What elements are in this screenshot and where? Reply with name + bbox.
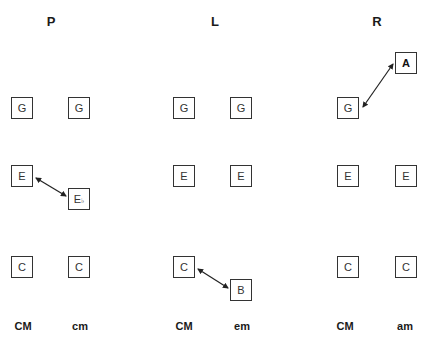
note-label: E	[74, 193, 81, 205]
note-box-l-right-b: B	[230, 279, 252, 301]
note-box-l-right-g: G	[230, 97, 252, 119]
arrow-l-c-to-b	[198, 269, 228, 288]
note-box-r-left-g: G	[337, 97, 359, 119]
note-box-l-left-c: C	[173, 256, 195, 278]
arrow-p-e-to-eflat	[36, 178, 66, 196]
chord-label-l-right: em	[222, 320, 262, 332]
note-box-p-right-g: G	[68, 97, 90, 119]
chord-label-l-left: CM	[164, 320, 204, 332]
chord-label-r-left: CM	[325, 320, 365, 332]
note-box-r-left-c: C	[337, 256, 359, 278]
arrow-r-g-to-a	[363, 64, 393, 107]
note-box-r-left-e: E	[337, 165, 359, 187]
note-box-p-left-g: G	[11, 97, 33, 119]
note-box-r-right-e: E	[395, 165, 417, 187]
note-box-p-right-c: C	[68, 256, 90, 278]
chord-label-r-right: am	[385, 320, 425, 332]
note-box-l-left-g: G	[173, 97, 195, 119]
note-box-l-right-e: E	[230, 165, 252, 187]
note-box-r-right-a: A	[395, 52, 417, 74]
note-box-r-right-c: C	[395, 256, 417, 278]
note-box-p-right-eflat: E♭	[68, 188, 90, 210]
panel-title-r: R	[362, 14, 392, 29]
chord-label-p-right: cm	[60, 320, 100, 332]
note-box-p-left-e: E	[11, 165, 33, 187]
panel-title-p: P	[36, 14, 66, 29]
panel-title-l: L	[200, 14, 230, 29]
chord-label-p-left: CM	[3, 320, 43, 332]
flat-symbol: ♭	[81, 197, 84, 205]
note-box-p-left-c: C	[11, 256, 33, 278]
transform-arrows	[0, 0, 429, 347]
note-box-l-left-e: E	[173, 165, 195, 187]
